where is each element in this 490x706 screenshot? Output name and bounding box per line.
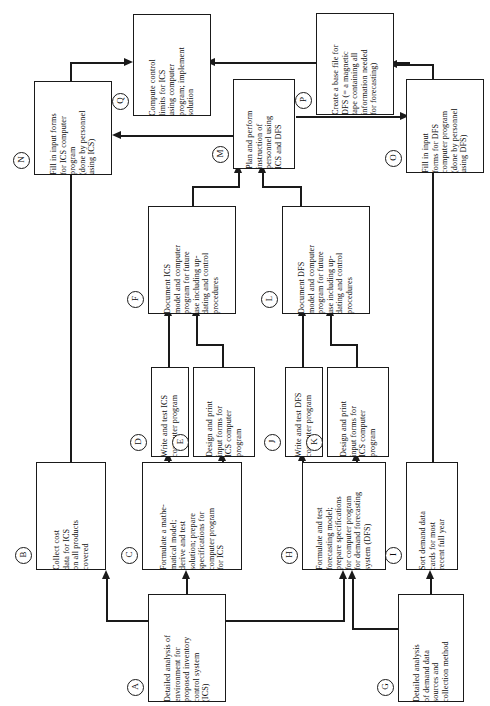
node-F-tag-letter: F <box>129 296 142 301</box>
node-G-tag: G <box>377 679 394 696</box>
node-Q-label: Compute control limits for ICS using com… <box>148 14 196 116</box>
edge-a-c-arrowhead <box>182 570 190 579</box>
edge-a-h-vertical <box>343 578 345 622</box>
edge-a-b-arrowhead <box>102 570 110 579</box>
node-K-label: Design and print input forms for ICS com… <box>339 367 377 457</box>
edge-b-q-arrowhead <box>124 58 133 66</box>
node-D-tag-letter: D <box>132 438 145 445</box>
edge-e-f-vertical <box>196 314 198 346</box>
node-N-tag-letter: N <box>15 156 28 163</box>
node-H-tag-letter: H <box>283 551 296 558</box>
node-G[interactable]: Detailed analysis of demand data sources… <box>398 594 464 702</box>
node-P[interactable]: Create a base file for DFS (= a magnetic… <box>316 13 394 115</box>
edge-g-h-horizontal <box>352 628 400 630</box>
node-E-tag-letter: E <box>174 439 187 445</box>
node-E-tag: E <box>172 434 189 451</box>
node-M-label: Plan and perform instruction of personne… <box>245 79 283 169</box>
edge-l-m-horizontal <box>262 186 302 188</box>
edge-a-b-vertical <box>106 578 108 622</box>
node-Q-tag-letter: Q <box>114 97 127 104</box>
node-Q[interactable]: Compute control limits for ICS using com… <box>133 14 211 116</box>
node-O-tag-letter: O <box>387 154 400 161</box>
edge-f-m-horizontal <box>192 186 240 188</box>
edge-m-n-horizontal <box>120 135 235 137</box>
node-H-tag: H <box>281 547 298 564</box>
node-B-tag-letter: B <box>17 551 30 557</box>
edge-i-p-horizontal <box>396 64 434 66</box>
edge-g-i-arrowhead <box>426 570 434 579</box>
edge-a-b-horizontal <box>106 620 150 622</box>
node-I-tag-letter: I <box>387 553 400 556</box>
node-L[interactable]: Document DFS model and computer program … <box>282 206 370 314</box>
node-C-tag: C <box>121 547 138 564</box>
node-Q-tag: Q <box>112 93 129 110</box>
edge-f-m-vertical <box>192 186 194 208</box>
node-O-label: Fill in input forms for DFS computer pro… <box>421 79 469 173</box>
node-I[interactable]: Sort demand data cards for most recent f… <box>406 462 458 570</box>
node-O[interactable]: Fill in input forms for DFS computer pro… <box>406 79 484 173</box>
edge-m-n-arrowhead <box>112 131 121 139</box>
edge-f-m-riser <box>238 172 240 188</box>
node-O-tag: O <box>385 150 402 167</box>
node-P-tag: P <box>295 92 312 109</box>
node-L-label: Document DFS model and computer program … <box>297 206 354 314</box>
node-M-tag-letter: M <box>214 149 227 157</box>
node-N[interactable]: Fill in input forms for ICS computer pro… <box>34 81 112 175</box>
node-P-label: Create a base file for DFS (= a magnetic… <box>331 13 379 115</box>
node-I-label: Sort demand data cards for most recent f… <box>418 462 447 570</box>
node-A-tag: A <box>127 679 144 696</box>
edge-j-l-vertical <box>302 314 304 369</box>
node-K[interactable]: Design and print input forms for ICS com… <box>327 367 389 457</box>
node-E-label: Design and print input forms for ICS com… <box>205 367 243 457</box>
node-A[interactable]: Detailed analysis of environment for pro… <box>148 594 226 702</box>
node-I-tag: I <box>385 547 402 564</box>
edge-d-f-vertical <box>168 314 170 369</box>
node-M[interactable]: Plan and perform instruction of personne… <box>233 79 295 169</box>
node-H-label: Formulate and test forecasting model; pr… <box>315 462 372 570</box>
edge-p-o-horizontal <box>394 64 396 66</box>
node-F[interactable]: Document ICS model and computer program … <box>148 206 236 314</box>
node-B-label: Collect cost data for ICS on all product… <box>52 462 90 570</box>
node-E[interactable]: Design and print input forms for ICS com… <box>193 367 255 457</box>
node-C-label: Formulate a mathe- matical model; derive… <box>159 462 226 570</box>
edge-k-l-vertical <box>330 314 332 346</box>
node-K-tag: K <box>306 434 323 451</box>
node-B-tag: B <box>15 547 32 564</box>
flowchart-canvas: Detailed analysis of environment for pro… <box>0 0 490 706</box>
edge-b-q-horizontal <box>70 62 125 64</box>
node-K-tag-letter: K <box>308 438 321 445</box>
edge-l-m-riser <box>262 172 264 188</box>
node-M-tag: M <box>212 146 229 163</box>
edge-k-l-horizontal <box>330 344 358 346</box>
node-D-tag: D <box>130 434 147 451</box>
node-C-tag-letter: C <box>123 551 136 557</box>
node-B[interactable]: Collect cost data for ICS on all product… <box>36 462 106 570</box>
node-A-tag-letter: A <box>129 683 142 690</box>
edge-e-f-horizontal <box>196 344 224 346</box>
node-J-tag: J <box>264 434 281 451</box>
node-G-tag-letter: G <box>379 683 392 690</box>
edge-g-h-vertical <box>352 578 354 630</box>
node-F-label: Document ICS model and computer program … <box>163 206 220 314</box>
node-L-tag: L <box>261 291 278 308</box>
node-N-tag: N <box>13 152 30 169</box>
edge-a-h-horizontal <box>226 620 345 622</box>
node-A-label: Detailed analysis of environment for pro… <box>163 594 211 702</box>
node-F-tag: F <box>127 291 144 308</box>
edge-m-o-horizontal <box>296 116 402 118</box>
node-L-tag-letter: L <box>263 296 276 302</box>
node-J-tag-letter: J <box>266 440 279 444</box>
node-G-label: Detailed analysis of demand data sources… <box>412 594 450 702</box>
edge-l-m-vertical <box>300 186 302 208</box>
node-N-label: Fill in input forms for ICS computer pro… <box>49 81 97 175</box>
edge-a-h-arrowhead <box>339 570 347 579</box>
node-P-tag-letter: P <box>297 97 310 102</box>
edge-g-h-arrowhead <box>348 570 356 579</box>
node-C[interactable]: Formulate a mathe- matical model; derive… <box>142 462 242 570</box>
node-H[interactable]: Formulate and test forecasting model; pr… <box>302 462 386 570</box>
